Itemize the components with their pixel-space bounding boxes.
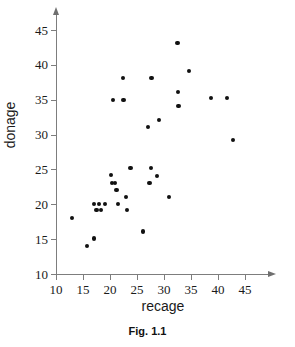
x-axis-tick-label: 15 [70,283,96,296]
y-axis-tick-label: 45 [22,24,48,37]
data-point [124,195,128,199]
data-point [114,188,118,192]
data-point [141,229,145,233]
x-axis-tick [110,274,111,280]
y-axis-tick [51,65,57,66]
y-axis-tick-label: 10 [22,268,48,281]
data-point [70,216,74,220]
y-axis-tick [51,169,57,170]
y-axis-tick-label: 30 [22,128,48,141]
y-axis-line [56,14,57,275]
y-axis-tick [51,135,57,136]
data-point [103,202,107,206]
x-axis-tick-label: 10 [43,283,69,296]
x-axis-tick [83,274,84,280]
data-point [149,166,153,170]
x-axis-line [56,274,270,275]
x-axis-tick [245,274,246,280]
y-axis-tick-label: 40 [22,58,48,71]
x-axis-tick-label: 40 [205,283,231,296]
x-axis-arrow-icon [268,271,276,277]
data-point [97,202,101,206]
data-point [187,69,191,73]
y-axis-arrow-icon [53,7,59,15]
y-axis-tick-label: 15 [22,233,48,246]
data-point [157,118,161,122]
y-axis-tick [51,239,57,240]
data-point [92,236,96,240]
data-point [231,138,235,142]
y-axis-title: donage [3,90,17,160]
x-axis-tick [164,274,165,280]
data-point [111,98,115,102]
data-point [209,96,213,100]
y-axis-tick-label: 25 [22,163,48,176]
data-point [128,166,132,170]
x-axis-title: recage [56,299,270,313]
y-axis-tick [51,30,57,31]
x-axis-tick-label: 25 [124,283,150,296]
y-axis-tick [51,100,57,101]
data-point [176,90,180,94]
x-axis-tick-label: 45 [232,283,258,296]
data-point [113,181,117,185]
x-axis-tick [218,274,219,280]
data-point [94,208,98,212]
scatter-plot: 1015202530354045 1015202530354045 donage… [0,0,295,295]
data-point [121,98,125,102]
x-axis-tick [137,274,138,280]
data-point [225,96,229,100]
data-point [146,125,150,129]
data-point [109,173,113,177]
data-point [125,208,129,212]
data-point [92,202,96,206]
figure-caption: Fig. 1.1 [0,326,295,337]
x-axis-tick-label: 20 [97,283,123,296]
data-point [116,202,120,206]
data-point [85,244,89,248]
data-point [175,41,179,45]
data-point [155,174,159,178]
data-point [167,195,171,199]
data-point [149,76,153,80]
data-point [147,181,151,185]
y-axis-tick-label: 20 [22,198,48,211]
y-axis-tick [51,204,57,205]
x-axis-tick-label: 35 [178,283,204,296]
figure-container: 1015202530354045 1015202530354045 donage… [0,0,295,347]
data-point [176,104,180,108]
x-axis-tick [191,274,192,280]
data-point [121,76,125,80]
x-axis-tick-label: 30 [151,283,177,296]
data-point [99,208,103,212]
y-axis-tick-label: 35 [22,93,48,106]
x-axis-tick [56,274,57,280]
